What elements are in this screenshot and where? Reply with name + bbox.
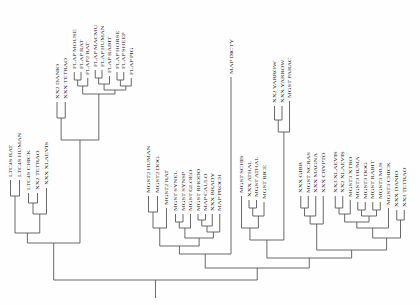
tip-label: XXX CRYPTO	[321, 153, 326, 193]
phylogenetic-tree: LTC4S RATLTC4S HUMANLTC4S CHICKXX2 TETRA…	[0, 0, 420, 305]
tip-label: MGST3 XTRO	[348, 157, 353, 197]
tip-label: FLAP RAT	[78, 39, 83, 69]
tip-label: XX2 TETRAO	[35, 151, 40, 190]
tip-label: XXX BRADY	[210, 172, 215, 211]
tip-label: MAP DICTY	[228, 38, 233, 74]
tip-label: FLAP MACMU	[93, 24, 98, 67]
figure-canvas: LTC4S RATLTC4S HUMANLTC4S CHICKXX2 TETRA…	[0, 0, 420, 305]
tip-label: XXX GIBB	[298, 162, 303, 193]
tip-label: XX2 YARROW	[272, 61, 277, 103]
tip-label: FLAP SHEEP	[121, 31, 126, 69]
tip-label: XXX YARROW	[279, 59, 284, 103]
tip-label: XXX XLAEVIS	[44, 142, 49, 185]
tip-label: FLAP RABIT	[107, 36, 112, 73]
tip-label: XXX TETRAO	[63, 58, 68, 99]
tip-label: XX3 XLAEVIS	[333, 151, 338, 193]
tip-label: MGST3 MUS	[378, 162, 383, 199]
tip-label: LTC4S HUMAN	[17, 132, 22, 177]
tip-label: FLAP PIG	[129, 47, 134, 75]
tip-label: XX2 XLAEVIS	[340, 151, 345, 193]
tip-label: LTC4S RAT	[8, 144, 13, 177]
tip-label: MGST3 CHICK	[386, 161, 391, 205]
tip-label: XXX ATHAL	[246, 160, 251, 197]
tip-label: MGST NCRAS	[306, 152, 311, 193]
tip-label: FLAP2 RAT	[85, 42, 90, 75]
tip-label: MGST GLOEO	[188, 170, 193, 211]
tip-label: XXX DANIO	[394, 171, 399, 207]
tip-label: MGST SYNEL	[173, 170, 178, 211]
tip-label: MGST2 DOG	[155, 155, 160, 193]
tip-label: MGST ATHAL	[254, 156, 259, 197]
tip-label: MGST RICE	[261, 164, 266, 199]
tip-label: MGST RHODO	[195, 169, 200, 211]
tip-label: MAP CAULO	[203, 173, 208, 211]
tip-label: MAP PROCH	[217, 173, 222, 211]
tip-label-layer: LTC4S RATLTC4S HUMANLTC4S CHICKXX2 TETRA…	[8, 24, 407, 211]
tip-label: FLAP MOUSE	[72, 29, 77, 69]
tip-label: MGST PARAC	[287, 58, 292, 98]
tip-label: MGST SYNSP	[180, 171, 185, 211]
tip-label: MGST3 DOG	[363, 161, 368, 199]
tip-label: XX2 DANIO	[54, 64, 59, 99]
tip-label: FLAP HORSE	[114, 30, 119, 69]
tip-label: MGST RABIT	[370, 160, 375, 199]
tip-label: XXX MAGNA	[313, 152, 318, 193]
tip-label: LTC4S CHICK	[26, 149, 31, 190]
tip-label: MGST3 HUMA	[355, 156, 360, 199]
tip-label: FLAP HUMAN	[99, 25, 104, 67]
tip-label: XX3 TETRAO	[402, 168, 407, 207]
tip-label: MGST SCHIS	[239, 155, 244, 193]
tip-label: MGST2 RAT	[164, 170, 169, 205]
tip-label: MGST2 HUMAN	[146, 145, 151, 193]
